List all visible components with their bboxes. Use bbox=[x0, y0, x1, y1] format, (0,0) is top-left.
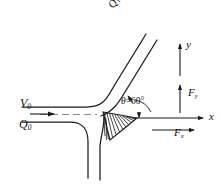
force-x-subscript: x bbox=[181, 132, 184, 139]
jet-lower-boundary bbox=[22, 122, 88, 178]
inlet-flow-label: Q0 bbox=[19, 117, 31, 132]
stagnation-wedge-hatching bbox=[103, 112, 137, 140]
force-y-label: Fy bbox=[188, 86, 198, 99]
inlet-flow-subscript: 0 bbox=[28, 123, 32, 132]
axis-x-label: x bbox=[209, 110, 214, 122]
force-y-subscript: y bbox=[195, 92, 198, 99]
lower-branch-inner-boundary bbox=[100, 117, 104, 180]
angle-value: 60 bbox=[131, 96, 141, 106]
inlet-flow-symbol: Q bbox=[19, 117, 28, 131]
inlet-velocity-subscript: 0 bbox=[27, 102, 31, 111]
force-x-symbol: F bbox=[174, 126, 181, 138]
inlet-velocity-label: V0 bbox=[20, 96, 31, 111]
angle-label: θ=60° bbox=[121, 96, 144, 106]
angle-unit: ° bbox=[141, 96, 145, 106]
axis-y-label: y bbox=[186, 38, 191, 50]
force-x-label: Fx bbox=[174, 126, 184, 139]
force-y-symbol: F bbox=[188, 86, 195, 98]
jet-splitter-diagram: V0 Q0 Q1=0.6 Q0 θ=60° x y Fy Fx bbox=[0, 0, 221, 185]
